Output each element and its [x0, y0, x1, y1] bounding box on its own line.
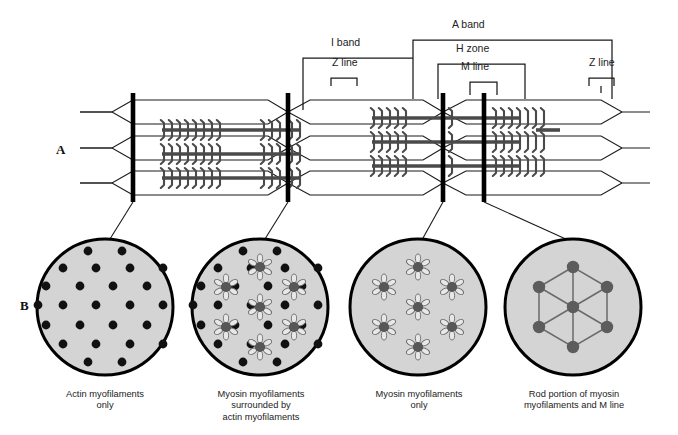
caption-line: Rod portion of myosin: [494, 389, 654, 400]
caption-line: surrounded by: [188, 400, 334, 411]
caption-rod-and-m-line: Rod portion of myosin myofilaments and M…: [494, 389, 654, 412]
h-zone-label: H zone: [456, 42, 489, 54]
panel-letter-b: B: [20, 298, 29, 314]
actin-thin-filaments: [80, 100, 650, 195]
myofibril-longitudinal: [80, 93, 650, 247]
caption-line: Myosin myofilaments: [348, 389, 490, 400]
i-band-bracket: [303, 58, 413, 110]
i-band-label: I band: [331, 36, 360, 48]
z-line-right-label: Z line: [589, 56, 615, 68]
z-line-left-bracket: [331, 78, 357, 86]
cross-section-rod-and-m-line: [505, 239, 641, 375]
cross-section-actin-only: [34, 239, 173, 375]
panel-letter-a: A: [56, 142, 65, 158]
z-line-left-label: Z line: [332, 56, 358, 68]
cross-section-leaders: [105, 202, 568, 247]
cross-section-myosin-with-actin: [189, 239, 328, 375]
caption-line: only: [348, 400, 490, 411]
caption-line: only: [35, 400, 175, 411]
a-band-label: A band: [452, 18, 485, 30]
caption-line: myofilaments and M line: [494, 400, 654, 411]
cross-section-circles: [34, 239, 641, 375]
a-band-bracket: [413, 40, 612, 99]
m-line-label: M line: [461, 60, 489, 72]
caption-line: Myosin myofilaments: [188, 389, 334, 400]
z-line-right-bracket: [589, 78, 614, 86]
caption-line: Actin myofilaments: [35, 389, 175, 400]
caption-myosin-with-actin: Myosin myofilaments surrounded by actin …: [188, 389, 334, 423]
caption-actin-only: Actin myofilaments only: [35, 389, 175, 412]
caption-line: actin myofilaments: [188, 412, 334, 423]
sarcomere-diagram: A band I band H zone M line Z line Z lin…: [0, 0, 678, 435]
cross-section-myosin-only: [350, 239, 486, 375]
caption-myosin-only: Myosin myofilaments only: [348, 389, 490, 412]
